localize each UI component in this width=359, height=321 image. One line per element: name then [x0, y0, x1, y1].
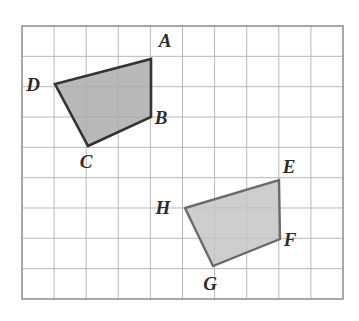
geometry-figure-svg: ABCDEFGH — [0, 0, 359, 321]
vertex-label-h: H — [155, 197, 172, 218]
vertex-label-d: D — [25, 74, 40, 95]
vertex-label-a: A — [158, 30, 172, 51]
vertex-label-c: C — [80, 151, 93, 172]
vertex-label-f: F — [283, 229, 297, 250]
vertex-label-e: E — [282, 156, 296, 177]
vertex-label-b: B — [154, 107, 168, 128]
geometry-figure-canvas: ABCDEFGH — [0, 0, 359, 321]
vertex-label-g: G — [203, 273, 217, 294]
